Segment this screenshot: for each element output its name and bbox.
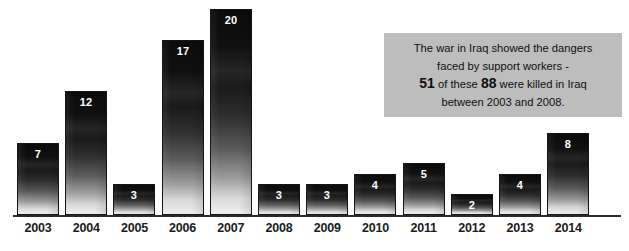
annotation-line-1: The war in Iraq showed the dangers: [394, 40, 612, 58]
bar-2009: 3: [306, 184, 348, 215]
bar-value-label-2012: 2: [452, 199, 492, 211]
bar-value-label-2007: 20: [211, 14, 251, 26]
x-tick-label-2011: 2011: [398, 221, 450, 235]
bar-value-label-2011: 5: [404, 168, 444, 180]
x-tick-label-2007: 2007: [205, 221, 257, 235]
bar-2014: 8: [547, 133, 589, 215]
bar-value-label-2006: 17: [163, 45, 203, 57]
annotation-stat-total: 88: [481, 75, 497, 91]
bar-chart: 712317203345248 200320042005200620072008…: [0, 0, 629, 251]
annotation-line-4: between 2003 and 2008.: [394, 94, 612, 112]
annotation-stat-killed: 51: [419, 75, 435, 91]
x-tick-label-2005: 2005: [108, 221, 160, 235]
annotation-line-2: faced by support workers -: [394, 58, 612, 76]
bar-value-label-2008: 3: [259, 189, 299, 201]
bar-value-label-2014: 8: [548, 138, 588, 150]
x-axis-line: [13, 215, 621, 217]
annotation-line-3-tail: were killed in Iraq: [497, 78, 587, 90]
annotation-callout: The war in Iraq showed the dangers faced…: [384, 33, 622, 117]
x-tick-label-2013: 2013: [494, 221, 546, 235]
bar-2010: 4: [354, 174, 396, 215]
bar-2006: 17: [162, 40, 204, 215]
bar-value-label-2004: 12: [66, 96, 106, 108]
x-axis-tick-labels: 2003200420052006200720082009201020112012…: [0, 221, 629, 243]
bar-value-label-2005: 3: [114, 189, 154, 201]
x-tick-label-2009: 2009: [301, 221, 353, 235]
annotation-line-3: 51 of these 88 were killed in Iraq: [394, 75, 612, 94]
x-tick-label-2014: 2014: [542, 221, 594, 235]
bar-2007: 20: [210, 9, 252, 215]
bar-value-label-2009: 3: [307, 189, 347, 201]
x-tick-label-2012: 2012: [446, 221, 498, 235]
annotation-line-3-mid: of these: [435, 78, 481, 90]
bar-value-label-2013: 4: [500, 179, 540, 191]
x-tick-label-2006: 2006: [157, 221, 209, 235]
x-tick-label-2003: 2003: [12, 221, 64, 235]
x-tick-label-2010: 2010: [349, 221, 401, 235]
bar-2012: 2: [451, 194, 493, 215]
bar-2011: 5: [403, 163, 445, 215]
bar-2003: 7: [17, 143, 59, 215]
bar-2005: 3: [113, 184, 155, 215]
bar-value-label-2003: 7: [18, 148, 58, 160]
bar-2004: 12: [65, 91, 107, 215]
bar-2008: 3: [258, 184, 300, 215]
bar-2013: 4: [499, 174, 541, 215]
x-tick-label-2004: 2004: [60, 221, 112, 235]
bar-value-label-2010: 4: [355, 179, 395, 191]
x-tick-label-2008: 2008: [253, 221, 305, 235]
